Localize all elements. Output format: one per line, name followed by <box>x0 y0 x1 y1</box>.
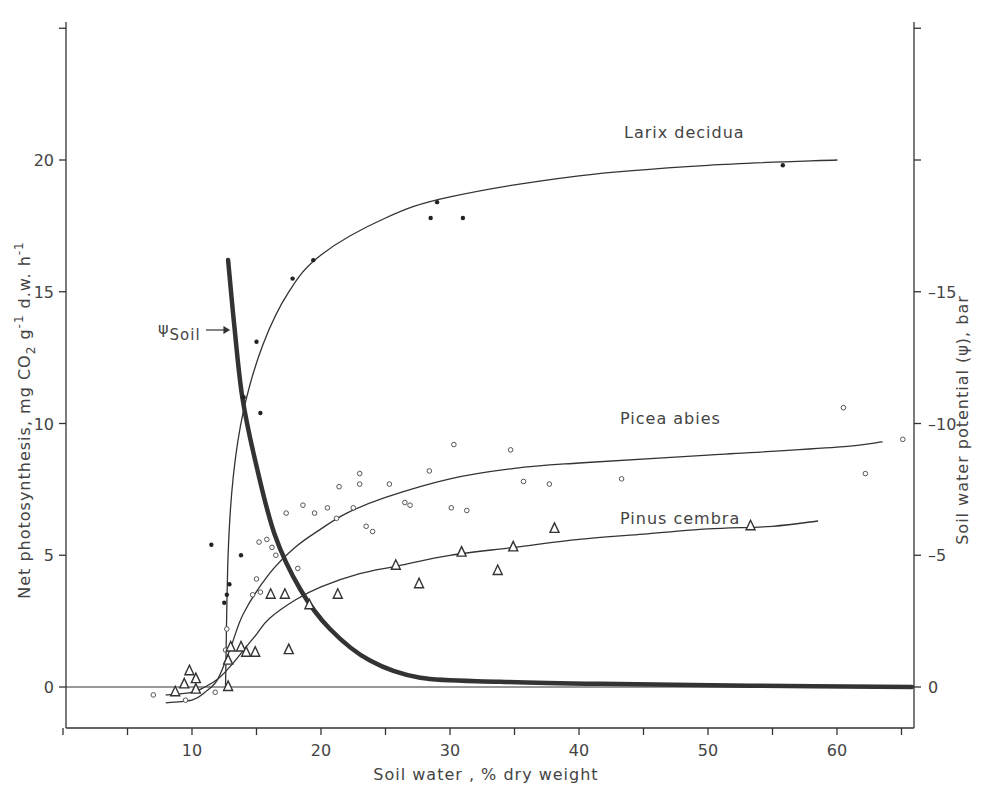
data-point-circle <box>258 590 263 595</box>
data-point-circle <box>225 627 230 632</box>
data-point-triangle <box>333 589 342 599</box>
data-point-circle <box>863 471 868 476</box>
data-point-circle <box>183 698 188 703</box>
data-point-circle <box>900 437 905 442</box>
data-point-dot <box>781 163 785 167</box>
data-point-circle <box>408 503 413 508</box>
data-point-triangle <box>280 589 289 599</box>
data-point-circle <box>370 529 375 534</box>
data-point-dot <box>225 593 229 597</box>
data-point-circle <box>364 524 369 529</box>
x-axis-title: Soil water , % dry weight <box>373 765 598 784</box>
svg-text:ψSoil: ψSoil <box>158 319 201 344</box>
ticks <box>59 28 921 735</box>
data-point-circle <box>357 471 362 476</box>
curve-larix-decidua <box>226 160 838 687</box>
data-point-dot <box>222 600 226 604</box>
y2-tick-label: –5 <box>928 546 946 565</box>
y-tick-label: 10 <box>34 415 54 434</box>
data-point-circle <box>521 479 526 484</box>
series-label-larix: Larix decidua <box>624 123 745 142</box>
data-point-circle <box>547 482 552 487</box>
data-point-dot <box>227 582 231 586</box>
data-point-triangle <box>180 678 189 688</box>
data-point-circle <box>841 405 846 410</box>
curve--soil <box>228 260 912 687</box>
data-point-triangle <box>224 655 233 665</box>
data-point-circle <box>274 553 279 558</box>
x-tick-label: 50 <box>698 741 718 760</box>
curves <box>166 160 912 703</box>
data-point-circle <box>351 506 356 511</box>
y-tick-label: 0 <box>44 678 54 697</box>
data-point-circle <box>464 508 469 513</box>
axes <box>66 22 914 728</box>
data-point-triangle <box>284 644 293 654</box>
data-point-triangle <box>493 565 502 575</box>
y-tick-label: 20 <box>34 151 54 170</box>
series-label-pinus: Pinus cembra <box>620 509 740 528</box>
data-point-triangle <box>391 560 400 570</box>
data-point-dot <box>258 411 262 415</box>
data-point-dot <box>461 216 465 220</box>
markers <box>151 163 905 702</box>
data-point-circle <box>427 469 432 474</box>
data-point-circle <box>337 484 342 489</box>
chart: 102030405060051015200–5–10–15 Soil water… <box>0 0 986 795</box>
data-point-circle <box>449 506 454 511</box>
data-point-triangle <box>171 686 180 696</box>
data-point-triangle <box>266 589 275 599</box>
data-point-triangle <box>509 541 518 551</box>
data-point-dot <box>209 543 213 547</box>
data-point-dot <box>311 258 315 262</box>
data-point-circle <box>213 690 218 695</box>
data-point-circle <box>257 540 262 545</box>
data-point-circle <box>312 511 317 516</box>
data-point-circle <box>270 545 275 550</box>
y-tick-label: 15 <box>34 283 54 302</box>
data-point-circle <box>151 693 156 698</box>
data-point-triangle <box>251 647 260 657</box>
data-point-circle <box>295 566 300 571</box>
data-point-circle <box>325 506 330 511</box>
data-point-triangle <box>746 520 755 530</box>
data-point-dot <box>435 200 439 204</box>
x-tick-label: 60 <box>827 741 847 760</box>
data-point-triangle <box>185 665 194 675</box>
tick-labels: 102030405060051015200–5–10–15 <box>34 151 957 760</box>
data-point-circle <box>403 500 408 505</box>
y2-axis-title: Soil water potential (ψ), bar <box>953 295 972 545</box>
series-label-picea: Picea abies <box>620 409 721 428</box>
data-point-triangle <box>550 523 559 533</box>
data-point-dot <box>254 340 258 344</box>
data-point-circle <box>284 511 289 516</box>
arrow-right-icon <box>206 327 229 333</box>
x-tick-label: 10 <box>182 741 202 760</box>
data-point-circle <box>508 448 513 453</box>
data-point-triangle <box>457 547 466 557</box>
data-point-triangle <box>226 641 235 651</box>
data-point-circle <box>301 503 306 508</box>
data-point-circle <box>387 482 392 487</box>
data-point-circle <box>619 477 624 482</box>
data-point-dot <box>428 216 432 220</box>
data-point-triangle <box>415 578 424 588</box>
data-point-circle <box>250 592 255 597</box>
y-tick-label: 5 <box>44 546 54 565</box>
data-point-circle <box>452 442 457 447</box>
data-point-circle <box>334 516 339 521</box>
x-tick-label: 30 <box>440 741 460 760</box>
psi-soil-label: ψSoil <box>158 319 229 344</box>
data-point-dot <box>241 395 245 399</box>
x-tick-label: 20 <box>311 741 331 760</box>
data-point-triangle <box>191 684 200 694</box>
data-point-circle <box>265 537 270 542</box>
data-point-circle <box>254 577 259 582</box>
data-point-dot <box>290 276 294 280</box>
y2-tick-label: 0 <box>928 678 938 697</box>
data-point-dot <box>239 553 243 557</box>
curve-pinus-cembra <box>166 521 817 695</box>
x-tick-label: 40 <box>569 741 589 760</box>
data-point-circle <box>357 482 362 487</box>
